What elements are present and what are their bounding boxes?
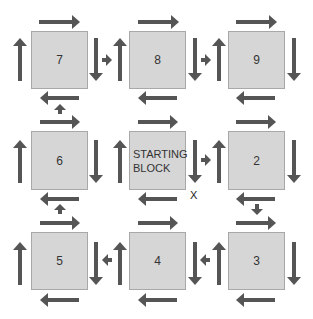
arrow-left-icon bbox=[236, 293, 275, 307]
arrow-up-icon bbox=[212, 242, 226, 285]
arrow-down-icon bbox=[89, 140, 103, 183]
path-diagram: 7896STARTING BLOCK2543 X bbox=[0, 0, 313, 319]
arrow-up-icon bbox=[54, 104, 66, 114]
arrow-left-icon bbox=[138, 293, 177, 307]
arrow-up-icon bbox=[13, 38, 27, 81]
arrow-left-icon bbox=[236, 192, 275, 206]
block-4: 4 bbox=[129, 232, 186, 290]
arrow-up-icon bbox=[113, 38, 127, 81]
block-5: 5 bbox=[31, 232, 88, 290]
arrow-down-icon bbox=[251, 204, 263, 215]
arrow-up-icon bbox=[113, 242, 127, 285]
block-9: 9 bbox=[228, 31, 285, 89]
arrow-down-icon bbox=[188, 242, 202, 285]
arrow-left-icon bbox=[138, 192, 177, 206]
arrow-down-icon bbox=[188, 38, 202, 81]
arrow-down-icon bbox=[89, 38, 103, 81]
arrow-down-icon bbox=[287, 140, 301, 183]
arrow-up-icon bbox=[54, 204, 66, 214]
arrow-up-icon bbox=[113, 140, 127, 183]
arrow-right-icon bbox=[201, 54, 211, 66]
arrow-down-icon bbox=[287, 38, 301, 81]
block-8: 8 bbox=[129, 31, 186, 89]
block-label: 9 bbox=[253, 53, 260, 67]
arrow-right-icon bbox=[102, 54, 112, 66]
arrow-right-icon bbox=[40, 216, 80, 230]
arrow-right-icon bbox=[201, 154, 211, 166]
block-start: STARTING BLOCK bbox=[129, 131, 186, 190]
arrow-right-icon bbox=[236, 115, 276, 129]
arrow-right-icon bbox=[236, 216, 276, 230]
arrow-left-icon bbox=[40, 192, 79, 206]
block-label: 2 bbox=[253, 154, 260, 168]
block-label: 6 bbox=[56, 154, 63, 168]
arrow-right-icon bbox=[138, 216, 178, 230]
block-2: 2 bbox=[228, 131, 285, 190]
block-3: 3 bbox=[228, 232, 285, 290]
block-7: 7 bbox=[31, 31, 88, 89]
block-label: 5 bbox=[56, 254, 63, 268]
arrow-down-icon bbox=[188, 140, 202, 183]
arrow-left-icon bbox=[138, 91, 177, 105]
arrow-left-icon bbox=[236, 91, 275, 105]
arrow-left-icon bbox=[40, 293, 79, 307]
arrow-down-icon bbox=[89, 242, 103, 285]
arrow-left-icon bbox=[40, 91, 79, 105]
arrow-right-icon bbox=[236, 15, 277, 29]
arrow-right-icon bbox=[138, 115, 178, 129]
arrow-up-icon bbox=[212, 140, 226, 183]
arrow-right-icon bbox=[40, 115, 80, 129]
arrow-right-icon bbox=[138, 15, 179, 29]
arrow-down-icon bbox=[287, 242, 301, 285]
block-label: STARTING BLOCK bbox=[133, 147, 188, 175]
arrow-left-icon bbox=[102, 254, 112, 266]
block-6: 6 bbox=[31, 131, 88, 190]
arrow-up-icon bbox=[212, 38, 226, 81]
arrow-left-icon bbox=[200, 254, 210, 266]
block-label: 8 bbox=[154, 53, 161, 67]
block-label: 4 bbox=[154, 254, 161, 268]
block-label: 7 bbox=[56, 53, 63, 67]
arrow-right-icon bbox=[39, 15, 80, 29]
arrow-up-icon bbox=[13, 140, 27, 183]
arrow-up-icon bbox=[13, 242, 27, 285]
block-label: 3 bbox=[253, 254, 260, 268]
x-marker: X bbox=[190, 189, 197, 201]
